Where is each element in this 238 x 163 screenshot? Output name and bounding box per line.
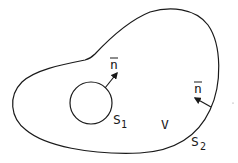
speck	[232, 102, 233, 103]
svg-text:S: S	[113, 112, 121, 127]
diagram-canvas: n n S 1 V S 2	[0, 0, 238, 163]
outer-surface-label: S 2	[191, 134, 206, 152]
svg-text:S: S	[191, 134, 199, 149]
normal-arrow-inner	[105, 73, 117, 88]
svg-text:1: 1	[121, 119, 127, 130]
volume-label: V	[161, 117, 169, 132]
svg-text:n: n	[194, 81, 202, 96]
normal-arrow-outer	[195, 98, 211, 107]
svg-text:n: n	[110, 57, 118, 72]
inner-surface-s1-circle	[70, 82, 112, 124]
normal-outer-label: n	[194, 81, 202, 96]
inner-surface-label: S 1	[113, 112, 127, 130]
outer-surface-s2-curve	[13, 9, 219, 153]
normal-inner-label: n	[110, 57, 118, 72]
svg-text:2: 2	[200, 141, 206, 152]
